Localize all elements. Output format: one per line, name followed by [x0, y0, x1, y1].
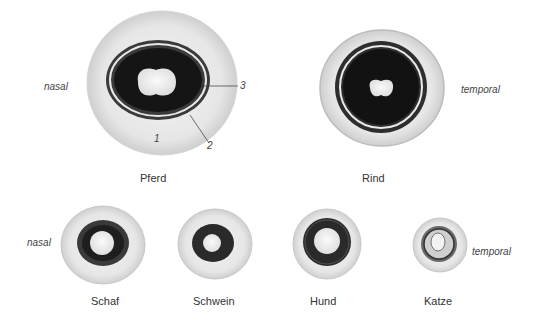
annotation-number-1: 1 — [154, 133, 160, 144]
annotation-number-3: 3 — [240, 80, 246, 91]
orientation-label-nasal-bottom: nasal — [27, 237, 51, 248]
caption-hund: Hund — [310, 295, 336, 307]
annotation-number-2: 2 — [207, 140, 213, 151]
orientation-label-temporal: temporal — [461, 84, 500, 95]
orientation-label-temporal-bottom: temporal — [472, 246, 511, 257]
orientation-label-nasal: nasal — [44, 81, 68, 92]
diagram-canvas — [0, 0, 540, 323]
caption-katze: Katze — [424, 295, 452, 307]
eye-hund — [293, 209, 361, 279]
eye-pferd — [87, 11, 237, 155]
caption-schaf: Schaf — [91, 295, 119, 307]
caption-pferd: Pferd — [140, 172, 166, 184]
caption-schwein: Schwein — [193, 295, 235, 307]
eye-katze — [413, 218, 467, 272]
eye-schwein — [178, 209, 252, 279]
caption-rind: Rind — [362, 172, 385, 184]
eye-rind — [320, 30, 444, 146]
eye-schaf — [61, 206, 145, 284]
